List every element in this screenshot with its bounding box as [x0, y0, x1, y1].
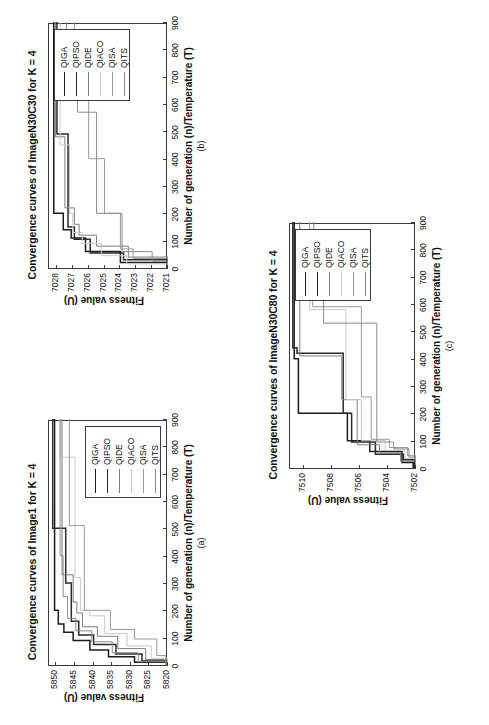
y-tick [119, 265, 120, 269]
legend-swatch-icon [131, 469, 132, 493]
x-tick-label: 0 [418, 453, 428, 485]
x-tick [411, 441, 415, 442]
x-tick [411, 304, 415, 305]
panel-b: Convergence curves of ImageN30C30 for K … [24, 15, 209, 315]
x-tick-label: 400 [418, 344, 428, 376]
panel-title: Convergence curves of ImageN30C80 for K … [267, 215, 279, 515]
legend-label: QIDE [324, 247, 335, 268]
y-tick [130, 662, 131, 666]
y-tick [93, 662, 94, 666]
legend-label: QIPSO [102, 438, 113, 465]
x-tick-label: 800 [418, 234, 428, 266]
y-tick [104, 265, 105, 269]
legend-item-qisa[interactable]: QISA [107, 48, 118, 96]
x-tick-label: 400 [170, 144, 180, 176]
x-axis-title: Number of generation (n)/Temperature (T) [431, 223, 442, 469]
x-tick [163, 610, 167, 611]
x-tick [163, 446, 167, 447]
y-tick [135, 265, 136, 269]
legend-label: QIDE [83, 47, 94, 68]
legend-label: QIACO [126, 438, 137, 465]
y-tick [55, 662, 56, 666]
x-tick [163, 104, 167, 105]
x-tick [163, 419, 167, 420]
legend-label: QISA [138, 445, 149, 465]
x-tick-label: 100 [170, 623, 180, 655]
x-tick-label: 700 [170, 62, 180, 94]
legend-item-qipso[interactable]: QIPSO [312, 241, 323, 296]
legend-label: QIPSO [312, 241, 323, 268]
legend-swatch-icon [317, 272, 318, 296]
legend-item-qipso[interactable]: QIPSO [71, 41, 82, 96]
x-tick [163, 241, 167, 242]
legend-label: QIPSO [71, 41, 82, 68]
y-axis-title: Fitness value (U) [63, 295, 143, 306]
y-tick-label: 7028 [50, 273, 60, 311]
legend-item-qiga[interactable]: QIGA [59, 47, 70, 96]
legend-label: QISA [107, 48, 118, 68]
legend-item-qiga[interactable]: QIGA [90, 444, 101, 493]
legend-label: QIGA [300, 247, 311, 268]
x-tick-label: 500 [418, 316, 428, 348]
y-tick [111, 662, 112, 666]
legend: QIGAQIPSOQIDEQIACOQISAQITS [54, 29, 130, 101]
x-tick [411, 413, 415, 414]
x-tick-label: 200 [170, 198, 180, 230]
x-tick [163, 638, 167, 639]
legend-item-qide[interactable]: QIDE [114, 444, 125, 493]
y-tick [167, 662, 168, 666]
legend-swatch-icon [143, 469, 144, 493]
y-tick [88, 265, 89, 269]
y-tick [72, 265, 73, 269]
y-axis-title: Fitness value (U) [63, 692, 143, 703]
legend-swatch-icon [341, 272, 342, 296]
y-tick [167, 265, 168, 269]
legend-item-qiga[interactable]: QIGA [300, 247, 311, 296]
panel-letter: (c) [444, 223, 454, 469]
x-tick-label: 300 [170, 568, 180, 600]
x-tick-label: 600 [170, 486, 180, 518]
y-tick-label: 7510 [297, 473, 307, 511]
legend-item-qits[interactable]: QITS [360, 248, 371, 296]
y-tick [151, 265, 152, 269]
panel-letter: (b) [196, 23, 206, 269]
legend-item-qisa[interactable]: QISA [138, 445, 149, 493]
x-tick [411, 222, 415, 223]
legend-item-qits[interactable]: QITS [119, 48, 130, 96]
y-tick-label: 5820 [161, 670, 171, 708]
legend-item-qiaco[interactable]: QIACO [95, 41, 106, 96]
legend-label: QIDE [114, 444, 125, 465]
legend-item-qiaco[interactable]: QIACO [336, 241, 347, 296]
legend-label: QIGA [90, 444, 101, 465]
panel-a: Convergence curves of Image1 for K = 401… [24, 412, 209, 712]
x-tick [163, 528, 167, 529]
x-axis-title: Number of generation (n)/Temperature (T) [183, 420, 194, 666]
x-tick [163, 474, 167, 475]
figure-page: Convergence curves of ImageN30C30 for K … [0, 0, 489, 725]
y-tick-label: 7022 [145, 273, 155, 311]
legend-swatch-icon [119, 469, 120, 493]
x-tick [411, 331, 415, 332]
legend-swatch-icon [64, 72, 65, 96]
legend-swatch-icon [124, 72, 125, 96]
y-axis-title: Fitness value (U) [308, 495, 388, 506]
legend-label: QITS [360, 248, 371, 268]
legend-item-qits[interactable]: QITS [150, 445, 161, 493]
legend-item-qisa[interactable]: QISA [348, 248, 359, 296]
y-tick [415, 465, 416, 469]
x-tick [163, 556, 167, 557]
x-tick-label: 800 [170, 34, 180, 66]
legend-item-qide[interactable]: QIDE [83, 47, 94, 96]
y-tick-label: 5850 [49, 670, 59, 708]
x-tick [411, 249, 415, 250]
x-tick [163, 501, 167, 502]
legend-item-qipso[interactable]: QIPSO [102, 438, 113, 493]
y-tick-label: 7502 [409, 473, 419, 511]
legend-label: QIGA [59, 47, 70, 68]
x-tick-label: 400 [170, 541, 180, 573]
legend-item-qiaco[interactable]: QIACO [126, 438, 137, 493]
x-tick-label: 200 [170, 595, 180, 627]
x-tick [163, 22, 167, 23]
y-tick-label: 7021 [161, 273, 171, 311]
legend-item-qide[interactable]: QIDE [324, 247, 335, 296]
